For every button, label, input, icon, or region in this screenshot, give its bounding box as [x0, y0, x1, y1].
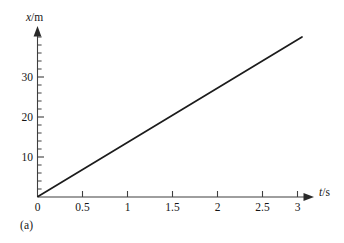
x-axis-arrow-icon [304, 193, 315, 201]
y-tick-label-30: 30 [22, 71, 34, 83]
x-axis-title: t/s [319, 186, 330, 198]
y-axis-title-unit: /m [31, 11, 43, 23]
y-minor-ticks [38, 37, 42, 189]
x-tick-label-1point5: 1.5 [165, 201, 180, 213]
figure-panel: 10 20 30 0 0.5 1 1.5 2 2.5 3 x/m t/s (a) [0, 0, 344, 243]
x-tick-label-0: 0 [35, 201, 41, 213]
y-tick-label-10: 10 [22, 151, 34, 163]
x-tick-label-3: 3 [295, 201, 301, 213]
y-axis-arrow-icon [34, 26, 42, 37]
panel-caption: (a) [20, 219, 33, 231]
x-tick-label-0point5: 0.5 [75, 201, 90, 213]
x-tick-label-2: 2 [215, 201, 221, 213]
x-tick-label-2point5: 2.5 [255, 201, 270, 213]
position-time-chart: 10 20 30 0 0.5 1 1.5 2 2.5 3 x/m t/s [0, 0, 344, 243]
position-time-line [38, 37, 302, 197]
x-axis-title-unit: /s [322, 186, 330, 198]
y-axis-title: x/m [25, 11, 43, 23]
x-tick-label-1: 1 [125, 201, 131, 213]
x-ticks [83, 191, 298, 197]
y-tick-label-20: 20 [22, 111, 34, 123]
